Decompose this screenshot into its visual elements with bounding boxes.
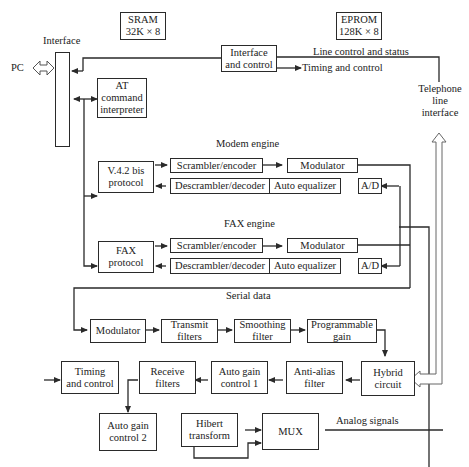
- fax-scrambler-block: Scrambler/encoder: [170, 238, 263, 253]
- sram-block: SRAM 32K × 8: [120, 12, 166, 40]
- modem-equalizer-block: Auto equalizer: [269, 178, 341, 194]
- interface-control-block: Interface and control: [221, 45, 277, 72]
- analog-signals-label: Analog signals: [336, 415, 399, 427]
- modem-descrambler-block: Descrambler/decoder: [170, 178, 270, 194]
- pc-bus-arrow-icon: [33, 61, 54, 75]
- modem-ad-block: A/D: [358, 178, 382, 194]
- programmable-gain-block: Programmable gain: [307, 319, 377, 343]
- fax-descrambler-block: Descrambler/decoder: [170, 258, 270, 274]
- interface-bus: [55, 52, 70, 147]
- timing-control-block: Timing and control: [61, 361, 119, 394]
- interface-label: Interface: [43, 35, 80, 47]
- serial-data-label: Serial data: [226, 290, 271, 302]
- modem-scrambler-block: Scrambler/encoder: [170, 158, 263, 173]
- anti-alias-filter-block: Anti-alias filter: [286, 361, 343, 394]
- fax-modulator-block: Modulator: [287, 238, 358, 253]
- modem-modulator-block: Modulator: [287, 158, 358, 173]
- line-control-status-label: Line control and status: [313, 46, 409, 58]
- pc-label: PC: [11, 62, 24, 74]
- receive-filters-block: Receive filters: [139, 361, 196, 394]
- fax-engine-label: FAX engine: [224, 218, 275, 230]
- smoothing-filter-block: Smoothing filter: [234, 319, 291, 343]
- telephone-line-interface-label: Telephone line interface: [414, 83, 466, 119]
- modem-engine-label: Modem engine: [216, 138, 279, 150]
- hilbert-transform-block: Hibert transform: [181, 413, 238, 447]
- transmit-filters-block: Transmit filters: [161, 319, 218, 343]
- mux-block: MUX: [262, 413, 319, 450]
- fax-protocol-block: FAX protocol: [98, 241, 154, 273]
- v42bis-protocol-block: V.4.2 bis protocol: [98, 161, 154, 193]
- at-command-interpreter-block: AT command interpreter: [97, 78, 147, 118]
- hybrid-circuit-block: Hybrid circuit: [361, 361, 415, 396]
- fax-equalizer-block: Auto equalizer: [269, 258, 341, 274]
- timing-control-out-label: Timing and control: [302, 62, 383, 74]
- fax-ad-block: A/D: [358, 258, 382, 274]
- tx-modulator-block: Modulator: [90, 319, 146, 343]
- eprom-block: EPROM 128K × 8: [336, 12, 382, 40]
- agc1-block: Auto gain control 1: [211, 361, 268, 394]
- agc2-block: Auto gain control 2: [99, 413, 157, 451]
